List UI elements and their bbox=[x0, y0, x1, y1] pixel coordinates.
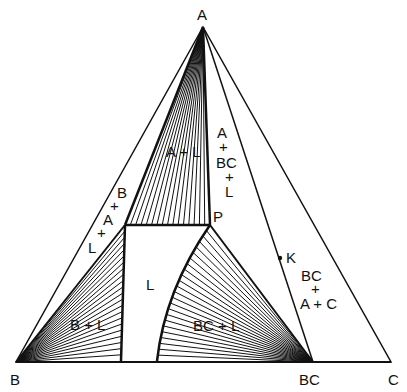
region-b-a-l-label-5: L bbox=[88, 239, 96, 256]
vertex-c-label: C bbox=[388, 371, 399, 388]
ternary-diagram: A B BC C P K A + L A + BC + L B + A + L … bbox=[0, 0, 407, 392]
liquidus-right bbox=[157, 225, 210, 361]
region-a-bc-l-label-2: + bbox=[219, 138, 228, 155]
vertex-b-label: B bbox=[10, 371, 20, 388]
region-b-a-l-label-4: + bbox=[97, 224, 106, 241]
point-k-marker bbox=[278, 256, 282, 260]
tie-line bbox=[162, 27, 203, 225]
region-a-bc-l-label-5: L bbox=[225, 183, 233, 200]
tie-lines-a-plus-l bbox=[130, 27, 204, 225]
point-p-label: P bbox=[213, 208, 223, 225]
vertex-bc-label: BC bbox=[299, 371, 320, 388]
point-k-label: K bbox=[286, 249, 296, 266]
vertex-a-label: A bbox=[197, 6, 207, 23]
tie-line bbox=[168, 27, 204, 225]
region-a-plus-l-label: A + L bbox=[166, 143, 201, 160]
tie-line bbox=[16, 237, 125, 362]
region-bc-plus-l-label: BC + L bbox=[193, 317, 239, 334]
region-l-label: L bbox=[146, 276, 154, 293]
region-b-plus-l-label: B + L bbox=[70, 316, 105, 333]
tie-line bbox=[16, 262, 124, 362]
region-bc-a-c-label-3: A + C bbox=[300, 295, 337, 312]
boundary-b-corner bbox=[16, 225, 125, 362]
tie-line bbox=[146, 27, 203, 225]
tie-line bbox=[190, 258, 313, 362]
